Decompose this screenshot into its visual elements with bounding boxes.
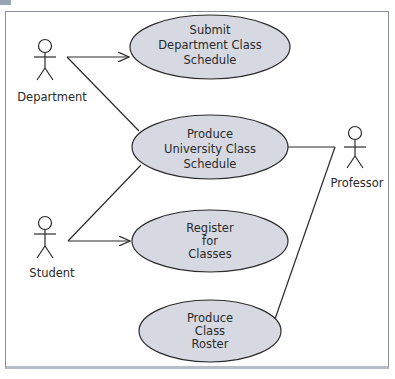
stick-figure-icon <box>34 40 56 81</box>
use-case-label-line: University Class <box>164 142 256 156</box>
actor-label: Department <box>17 90 87 104</box>
actor-department[interactable]: Department <box>17 40 87 105</box>
use-case-label-line: Schedule <box>184 157 237 171</box>
use-case-diagram: Submit Department Class Schedule Produce… <box>0 0 395 379</box>
use-case-label-line: for <box>202 234 218 248</box>
use-case-produce-university-class-schedule[interactable]: Produce University Class Schedule <box>132 115 288 179</box>
use-case-register-for-classes[interactable]: Register for Classes <box>132 210 288 272</box>
use-case-label-line: Schedule <box>184 53 237 67</box>
stick-figure-icon <box>344 127 366 169</box>
associations <box>67 57 335 319</box>
use-case-label-line: Produce <box>187 311 233 325</box>
use-case-label-line: Roster <box>192 337 229 351</box>
actor-label: Student <box>29 266 75 280</box>
use-case-label-line: Register <box>186 221 234 235</box>
actor-student[interactable]: Student <box>29 217 75 281</box>
use-case-label-line: Produce <box>187 127 233 141</box>
association-student-produce-schedule <box>68 165 141 241</box>
use-case-label-line: Class <box>195 324 225 338</box>
stick-figure-icon <box>34 217 56 259</box>
use-case-produce-class-roster[interactable]: Produce Class Roster <box>139 300 281 362</box>
use-case-label-line: Classes <box>188 247 231 261</box>
use-case-label-line: Submit <box>190 23 231 37</box>
use-case-label-line: Department Class <box>158 38 262 52</box>
use-case-submit-department-class-schedule[interactable]: Submit Department Class Schedule <box>130 15 290 79</box>
actor-professor[interactable]: Professor <box>330 127 383 191</box>
actor-label: Professor <box>330 176 383 190</box>
